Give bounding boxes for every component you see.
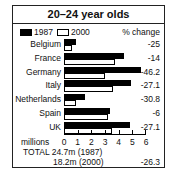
pct-change-value: -27.1 xyxy=(141,80,160,90)
x-tick-label: 1 xyxy=(75,137,80,147)
chart-frame: 20–24 year olds 1987 2000 % change Belgi… xyxy=(12,5,165,168)
chart-row: Belgium-25 xyxy=(13,37,164,51)
chart-row: Germany-46.2 xyxy=(13,65,164,79)
country-label: UK xyxy=(49,122,61,132)
x-tick xyxy=(132,130,133,134)
x-tick-label: 4 xyxy=(116,137,121,147)
country-label: Germany xyxy=(26,67,61,77)
x-tick-label: 2 xyxy=(89,137,94,147)
country-label: Belgium xyxy=(30,39,61,49)
chart-row: France-14 xyxy=(13,51,164,65)
pct-change-header: % change xyxy=(122,27,160,37)
country-label: France xyxy=(35,53,61,63)
legend-swatch-1987 xyxy=(20,29,32,36)
x-tick-label: 3 xyxy=(103,137,108,147)
x-tick-label: 6 xyxy=(144,137,149,147)
x-tick-label: 0 xyxy=(62,137,67,147)
x-axis xyxy=(64,134,146,135)
country-label: Italy xyxy=(45,80,61,90)
x-tick xyxy=(105,130,106,134)
total-2000: 18.2m (2000) xyxy=(53,157,104,167)
x-tick-label: 5 xyxy=(130,137,135,147)
pct-change-value: -25 xyxy=(148,39,160,49)
pct-change-value: -46.2 xyxy=(141,67,160,77)
pct-change-value: -6 xyxy=(152,108,160,118)
chart-row: Italy-27.1 xyxy=(13,78,164,92)
pct-change-value: -14 xyxy=(148,53,160,63)
x-axis-unit: millions xyxy=(21,137,49,147)
pct-change-value: -27.1 xyxy=(141,122,160,132)
pct-change-value: -30.8 xyxy=(141,94,160,104)
total-pct-change: -26.3 xyxy=(141,157,160,167)
chart-row: UK-27.1 xyxy=(13,120,164,134)
country-label: Spain xyxy=(39,108,61,118)
x-tick xyxy=(119,130,120,134)
chart-row: Spain-6 xyxy=(13,106,164,120)
x-tick xyxy=(64,130,65,134)
legend-label-2000: 2000 xyxy=(71,27,90,37)
x-tick xyxy=(91,130,92,134)
legend: 1987 2000 xyxy=(20,27,90,37)
total-1987: TOTAL 24.7m (1987) xyxy=(23,147,102,157)
country-label: Netherlands xyxy=(15,94,61,104)
x-tick xyxy=(78,130,79,134)
legend-swatch-2000 xyxy=(57,29,69,36)
chart-title: 20–24 year olds xyxy=(13,6,164,24)
x-tick xyxy=(145,130,146,134)
chart-row: Netherlands-30.8 xyxy=(13,92,164,106)
legend-label-1987: 1987 xyxy=(34,27,53,37)
